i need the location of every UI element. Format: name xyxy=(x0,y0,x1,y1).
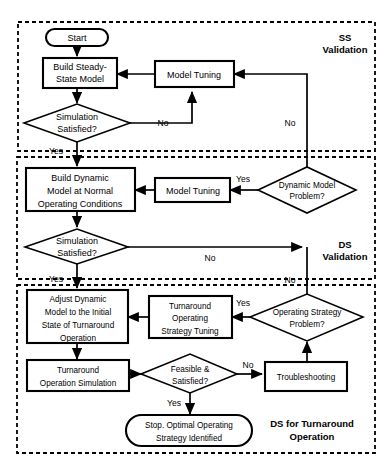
node-adjust-line4: Operation xyxy=(60,334,96,343)
edge-label-strategy-yes: Yes xyxy=(236,298,250,308)
node-build-ds-line3: Operating Conditions xyxy=(38,199,123,209)
node-sim-sat-ds-line1: Simulation xyxy=(56,236,98,246)
node-dynamic-model-problem[interactable] xyxy=(258,167,356,213)
node-ta-tuning-line1: Turnaround xyxy=(169,302,211,311)
edge-label-ds-return-no: No xyxy=(285,275,296,285)
edge-label-ss-yes: Yes xyxy=(49,146,63,156)
node-dyn-problem-line2: Problem? xyxy=(289,192,324,201)
node-sim-sat-ds-line2: Satisfied? xyxy=(57,248,97,258)
node-ta-sim-line2: Operation Simulation xyxy=(40,379,117,388)
node-ta-tuning-line2: Operating xyxy=(172,314,208,323)
node-model-tuning-ss-label: Model Tuning xyxy=(167,70,221,80)
node-op-strategy-line2: Problem? xyxy=(289,320,324,329)
flowchart-canvas: SS Validation DS Validation DS for Turna… xyxy=(0,0,389,471)
node-adjust-line3: State of Turnaround xyxy=(42,321,115,330)
node-ta-sim-line1: Turnaround xyxy=(57,366,99,375)
edge-label-feasible-no: No xyxy=(243,360,254,370)
group-ds-validation-label-line1: DS xyxy=(338,239,351,250)
node-feasible-line2: Satisfied? xyxy=(172,377,208,386)
node-model-tuning-ds-label: Model Tuning xyxy=(166,186,220,196)
node-simulation-satisfied-ds[interactable] xyxy=(25,229,128,264)
node-start-label: Start xyxy=(67,33,87,43)
edge-label-feasible-yes: Yes xyxy=(167,398,181,408)
edge-label-ss-no: No xyxy=(158,118,169,128)
node-troubleshooting-label: Troubleshooting xyxy=(277,373,336,382)
group-ss-validation-label-line1: SS xyxy=(339,32,352,43)
node-op-strategy-line1: Operating Strategy xyxy=(273,308,343,317)
node-sim-sat-ss-line2: Satisfied? xyxy=(57,124,97,134)
node-build-ds-line2: Model at Normal xyxy=(47,186,113,196)
group-ds-validation-label-line2: Validation xyxy=(323,251,368,262)
node-build-ds-line1: Build Dynamic xyxy=(51,173,109,183)
node-ta-tuning-line3: Strategy Tuning xyxy=(161,327,219,336)
node-adjust-line2: Model to the Initial xyxy=(45,308,112,317)
node-build-ss-line1: Build Steady- xyxy=(53,62,107,72)
group-ds-turnaround-label-line2: Operation xyxy=(290,431,335,442)
node-dyn-problem-line1: Dynamic Model xyxy=(279,181,336,190)
node-stop-line2: Strategy Identified xyxy=(156,434,222,443)
node-sim-sat-ss-line1: Simulation xyxy=(56,112,98,122)
edge-label-ss-return-no: No xyxy=(285,118,296,128)
node-feasible-line1: Feasible & xyxy=(171,365,210,374)
node-operating-strategy-problem[interactable] xyxy=(250,294,363,341)
edge-label-ds-no-right: No xyxy=(205,253,216,263)
node-build-ss-line2: State Model xyxy=(56,74,104,84)
flowchart-svg: SS Validation DS Validation DS for Turna… xyxy=(0,0,389,471)
edge-label-ds-yes-to-tuning: Yes xyxy=(236,174,250,184)
node-adjust-line1: Adjust Dynamic xyxy=(50,295,107,304)
node-simulation-satisfied-ss[interactable] xyxy=(24,104,130,142)
node-stop-line1: Stop. Optimal Operating xyxy=(145,421,233,430)
group-ds-turnaround-label-line1: DS for Turnaround xyxy=(270,418,354,429)
group-ss-validation-label-line2: Validation xyxy=(323,44,368,55)
edge-label-ds-yes-down: Yes xyxy=(49,274,63,284)
